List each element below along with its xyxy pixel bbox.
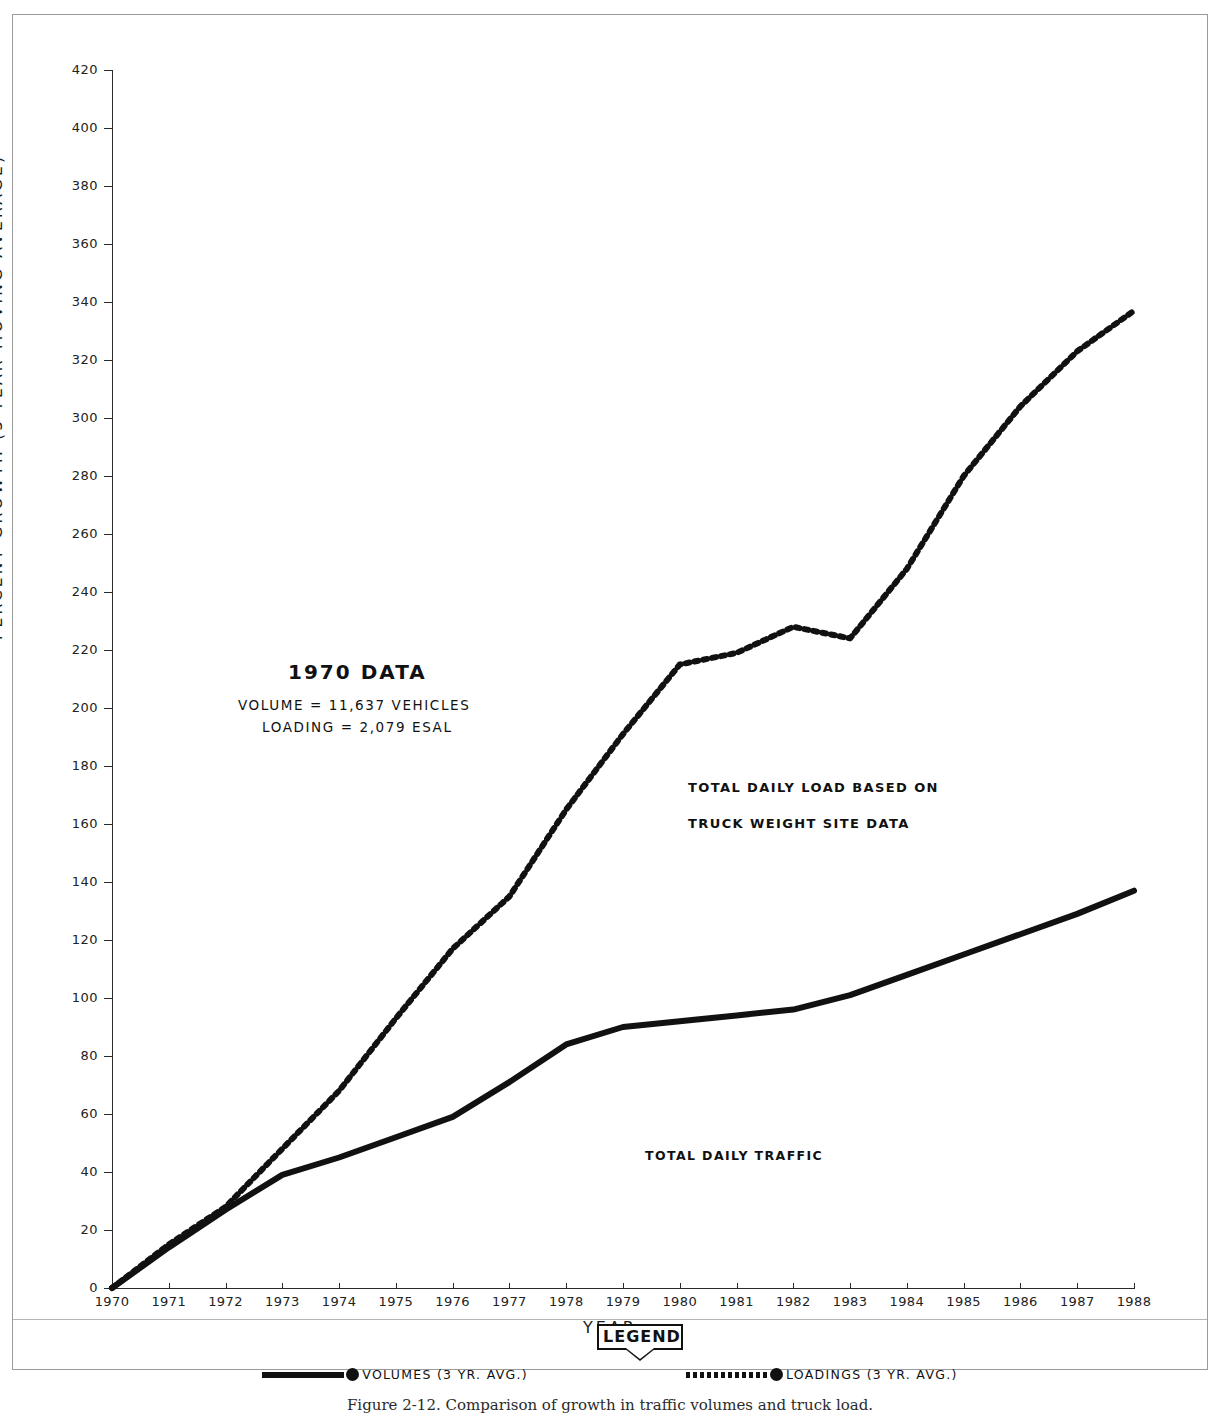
legend-item-loadings: LOADINGS (3 YR. AVG.): [686, 1367, 958, 1382]
legend-marker-icon: [770, 1368, 783, 1381]
legend-label-volumes: VOLUMES (3 YR. AVG.): [362, 1367, 528, 1382]
series-line-volumes: [112, 891, 1134, 1288]
legend-label-loadings: LOADINGS (3 YR. AVG.): [786, 1367, 958, 1382]
legend-title: LEGEND: [597, 1324, 683, 1350]
series-line-loadings: [112, 311, 1134, 1288]
annotation-1970-data-title: 1970 DATA: [288, 660, 427, 684]
legend-divider: [13, 1319, 1207, 1320]
legend-marker-icon: [346, 1368, 359, 1381]
dotted-line-swatch-icon: [686, 1372, 768, 1378]
legend-title-box: LEGEND: [597, 1324, 683, 1350]
annotation-1970-volume: VOLUME = 11,637 VEHICLES: [238, 697, 470, 713]
chart-plot-svg: [0, 0, 1220, 1414]
figure-caption: Figure 2-12. Comparison of growth in tra…: [0, 1396, 1220, 1414]
annotation-volumes-label: TOTAL DAILY TRAFFIC: [645, 1148, 823, 1163]
legend-pointer-inner-icon: [626, 1348, 654, 1359]
legend-entries: VOLUMES (3 YR. AVG.) LOADINGS (3 YR. AVG…: [0, 1367, 1220, 1382]
legend-item-volumes: VOLUMES (3 YR. AVG.): [262, 1367, 528, 1382]
solid-line-swatch-icon: [262, 1372, 344, 1378]
annotation-loadings-line1: TOTAL DAILY LOAD BASED ON: [688, 780, 939, 795]
annotation-loadings-line2: TRUCK WEIGHT SITE DATA: [688, 816, 910, 831]
annotation-1970-loading: LOADING = 2,079 ESAL: [262, 719, 453, 735]
